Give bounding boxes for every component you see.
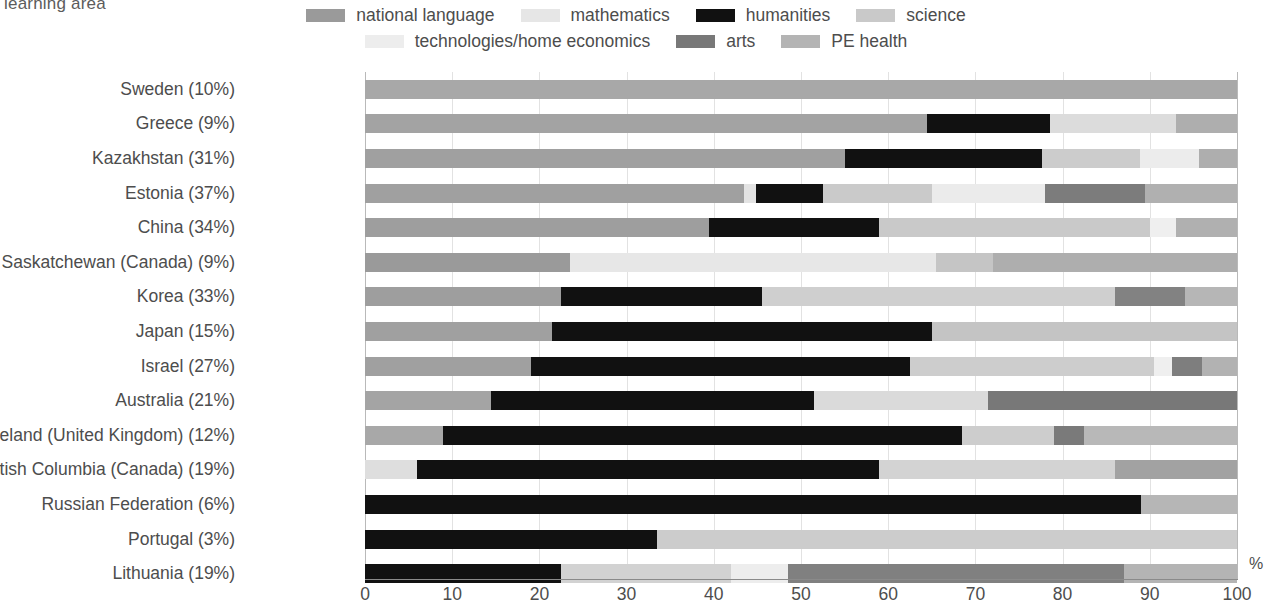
bar-segment-pe-health[interactable] bbox=[1145, 184, 1237, 203]
bar-segment-humanities[interactable] bbox=[756, 184, 823, 203]
bar-segment-science[interactable] bbox=[962, 426, 1054, 445]
bar-segment-national-language[interactable] bbox=[365, 184, 744, 203]
stacked-bar[interactable] bbox=[365, 357, 1237, 376]
bar-segment-national-language[interactable] bbox=[365, 149, 845, 168]
stacked-bar[interactable] bbox=[365, 530, 1237, 549]
bar-segment-humanities[interactable] bbox=[365, 564, 561, 583]
bar-segment-mathematics[interactable] bbox=[570, 253, 936, 272]
bar-segment-pe-health[interactable] bbox=[1185, 287, 1237, 306]
legend-item-humanities[interactable]: humanities bbox=[696, 5, 831, 26]
bar-segment-science[interactable] bbox=[762, 287, 1115, 306]
bar-segment-pe-health[interactable] bbox=[993, 253, 1237, 272]
stacked-bar[interactable] bbox=[365, 253, 1237, 272]
legend-label: humanities bbox=[746, 5, 831, 26]
stacked-bar[interactable] bbox=[365, 149, 1237, 168]
bar-segment-science[interactable] bbox=[1042, 149, 1141, 168]
x-tick-label: 70 bbox=[966, 584, 985, 605]
legend-item-technologies-home-economics[interactable]: technologies/home economics bbox=[365, 31, 650, 52]
legend-item-national-language[interactable]: national language bbox=[306, 5, 494, 26]
bar-row: China (34%) bbox=[0, 210, 1272, 245]
bar-segment-humanities[interactable] bbox=[443, 426, 962, 445]
bar-segment-pe-health[interactable] bbox=[1199, 149, 1237, 168]
stacked-bar[interactable] bbox=[365, 322, 1237, 341]
category-label: Lithuania (19%) bbox=[0, 563, 235, 584]
bar-segment-pe-health[interactable] bbox=[1084, 426, 1237, 445]
stacked-bar[interactable] bbox=[365, 460, 1237, 479]
legend-label: national language bbox=[356, 5, 494, 26]
bar-segment-humanities[interactable] bbox=[561, 287, 762, 306]
bar-segment-science[interactable] bbox=[823, 184, 932, 203]
bar-segment-national-language[interactable] bbox=[365, 391, 491, 410]
bar-segment-science[interactable] bbox=[910, 357, 1154, 376]
bar-segment-technologies-home-economics[interactable] bbox=[932, 184, 1045, 203]
stacked-bar[interactable] bbox=[365, 287, 1237, 306]
stacked-bar[interactable] bbox=[365, 218, 1237, 237]
stacked-bar[interactable] bbox=[365, 184, 1237, 203]
bar-segment-technologies-home-economics[interactable] bbox=[1150, 218, 1176, 237]
category-label: Portugal (3%) bbox=[0, 529, 235, 550]
bar-segment-mathematics[interactable] bbox=[365, 460, 417, 479]
bar-segment-science[interactable] bbox=[561, 564, 731, 583]
category-label: Japan (15%) bbox=[0, 321, 235, 342]
bar-segment-humanities[interactable] bbox=[365, 530, 657, 549]
bar-segment-arts[interactable] bbox=[1054, 426, 1085, 445]
bar-segment-pe-health[interactable] bbox=[1141, 495, 1237, 514]
bar-segment-pe-health[interactable] bbox=[365, 80, 1237, 99]
bar-segment-national-language[interactable] bbox=[365, 426, 443, 445]
legend-item-science[interactable]: science bbox=[856, 5, 965, 26]
legend-item-mathematics[interactable]: mathematics bbox=[521, 5, 670, 26]
bar-segment-pe-health[interactable] bbox=[1176, 114, 1237, 133]
bar-segment-technologies-home-economics[interactable] bbox=[731, 564, 788, 583]
category-label: China (34%) bbox=[0, 217, 235, 238]
bar-segment-national-language[interactable] bbox=[365, 114, 927, 133]
bar-segment-technologies-home-economics[interactable] bbox=[1140, 149, 1198, 168]
bar-segment-mathematics[interactable] bbox=[744, 184, 755, 203]
bar-segment-technologies-home-economics[interactable] bbox=[1154, 357, 1171, 376]
bar-segment-national-language[interactable] bbox=[365, 322, 552, 341]
legend-swatch-icon bbox=[365, 35, 404, 48]
bar-segment-national-language[interactable] bbox=[365, 357, 531, 376]
bar-row: Portugal (3%) bbox=[0, 522, 1272, 557]
bar-segment-science[interactable] bbox=[1050, 114, 1176, 133]
bar-segment-national-language[interactable] bbox=[365, 253, 570, 272]
bar-segment-science[interactable] bbox=[657, 530, 1237, 549]
bar-segment-national-language[interactable] bbox=[365, 287, 561, 306]
bar-segment-arts[interactable] bbox=[1115, 287, 1185, 306]
bar-segment-arts[interactable] bbox=[988, 391, 1237, 410]
bar-segment-humanities[interactable] bbox=[365, 495, 1141, 514]
bar-row: Saskatchewan (Canada) (9%) bbox=[0, 245, 1272, 280]
bar-row: Australia (21%) bbox=[0, 383, 1272, 418]
x-axis-unit-label: % bbox=[1249, 555, 1263, 573]
bar-segment-humanities[interactable] bbox=[845, 149, 1042, 168]
bar-segment-arts[interactable] bbox=[1172, 357, 1203, 376]
bar-segment-arts[interactable] bbox=[1115, 460, 1237, 479]
bar-segment-national-language[interactable] bbox=[365, 218, 709, 237]
stacked-bar[interactable] bbox=[365, 564, 1237, 583]
bar-segment-science[interactable] bbox=[879, 218, 1149, 237]
stacked-bar[interactable] bbox=[365, 391, 1237, 410]
x-tick-label: 80 bbox=[1053, 584, 1072, 605]
bar-segment-science[interactable] bbox=[936, 253, 993, 272]
stacked-bar[interactable] bbox=[365, 426, 1237, 445]
bar-segment-science[interactable] bbox=[932, 322, 1237, 341]
bar-segment-pe-health[interactable] bbox=[1202, 357, 1237, 376]
legend-item-pe-health[interactable]: PE health bbox=[781, 31, 907, 52]
bar-segment-pe-health[interactable] bbox=[1176, 218, 1237, 237]
bar-segment-science[interactable] bbox=[879, 460, 1114, 479]
stacked-bar[interactable] bbox=[365, 114, 1237, 133]
bar-segment-science[interactable] bbox=[814, 391, 988, 410]
bar-segment-humanities[interactable] bbox=[417, 460, 879, 479]
bar-segment-humanities[interactable] bbox=[531, 357, 910, 376]
category-label: Russian Federation (6%) bbox=[0, 494, 235, 515]
bar-segment-humanities[interactable] bbox=[552, 322, 931, 341]
bar-row: Sweden (10%) bbox=[0, 72, 1272, 107]
legend-item-arts[interactable]: arts bbox=[676, 31, 755, 52]
bar-segment-humanities[interactable] bbox=[927, 114, 1050, 133]
stacked-bar[interactable] bbox=[365, 495, 1237, 514]
stacked-bar[interactable] bbox=[365, 80, 1237, 99]
bar-segment-humanities[interactable] bbox=[709, 218, 879, 237]
bar-segment-arts[interactable] bbox=[1045, 184, 1145, 203]
bar-segment-arts[interactable] bbox=[788, 564, 1124, 583]
bar-segment-pe-health[interactable] bbox=[1124, 564, 1237, 583]
bar-segment-humanities[interactable] bbox=[491, 391, 814, 410]
